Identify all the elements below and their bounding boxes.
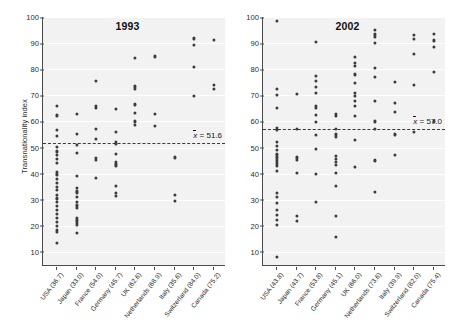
gridline xyxy=(43,226,225,227)
gridline xyxy=(263,69,445,70)
data-point xyxy=(413,83,416,86)
data-point xyxy=(334,236,337,239)
x-axis-tick xyxy=(115,267,116,270)
x-axis-tick xyxy=(394,267,395,270)
data-point xyxy=(95,137,98,140)
gridline xyxy=(43,95,225,96)
x-axis-tick xyxy=(193,267,194,270)
data-point xyxy=(173,156,176,159)
data-point xyxy=(393,81,396,84)
data-point xyxy=(373,75,376,78)
data-point xyxy=(75,112,78,115)
x-axis-label: Switzerland (82.0) xyxy=(383,271,422,318)
data-point xyxy=(56,162,59,165)
y-axis-tick: 80 xyxy=(13,65,39,74)
y-axis-tick: 70 xyxy=(13,91,39,100)
data-point xyxy=(75,191,78,194)
data-point xyxy=(56,212,59,215)
y-axis-tick: 60 xyxy=(13,117,39,126)
gridline xyxy=(263,174,445,175)
y-axis-tick: 10 xyxy=(233,247,259,256)
x-axis-tick xyxy=(174,267,175,270)
data-point xyxy=(334,136,337,139)
data-point xyxy=(432,33,435,36)
data-point xyxy=(315,114,318,117)
data-point xyxy=(334,184,337,187)
data-point xyxy=(134,103,137,106)
data-point xyxy=(56,150,59,153)
gridline xyxy=(43,174,225,175)
data-point xyxy=(276,191,279,194)
data-point xyxy=(315,85,318,88)
data-point xyxy=(354,82,357,85)
gridline xyxy=(263,200,445,201)
x-axis-tick xyxy=(154,267,155,270)
mean-label: x = 51.6 xyxy=(193,131,222,142)
mean-label: x = 57.0 xyxy=(413,117,442,128)
y-axis-tick: 90 xyxy=(233,39,259,48)
data-point xyxy=(95,158,98,161)
data-point xyxy=(134,56,137,59)
data-point xyxy=(354,91,357,94)
y-axis-tick: 10 xyxy=(13,247,39,256)
x-axis-tick xyxy=(433,267,434,270)
data-point xyxy=(56,220,59,223)
data-point xyxy=(134,120,137,123)
data-point xyxy=(354,99,357,102)
data-point xyxy=(193,37,196,40)
data-point xyxy=(315,80,318,83)
data-point xyxy=(276,87,279,90)
y-axis-tick: 90 xyxy=(13,39,39,48)
x-axis-tick xyxy=(134,267,135,270)
data-point xyxy=(276,164,279,167)
data-point xyxy=(315,200,318,203)
data-point xyxy=(75,231,78,234)
data-point xyxy=(315,91,318,94)
data-point xyxy=(134,88,137,91)
x-axis-labels-2002: USA (43.8)Japan (43.7)France (53.8)Germa… xyxy=(262,267,445,334)
data-point xyxy=(212,87,215,90)
data-point xyxy=(432,46,435,49)
gridline xyxy=(43,43,225,44)
data-point xyxy=(393,110,396,113)
data-point xyxy=(354,95,357,98)
panel-2002: 2002 102030405060708090100x = 57.0 USA (… xyxy=(250,17,445,265)
data-point xyxy=(75,152,78,155)
data-point xyxy=(373,42,376,45)
x-axis-tick xyxy=(213,267,214,270)
data-point xyxy=(432,70,435,73)
data-point xyxy=(276,141,279,144)
gridline xyxy=(263,43,445,44)
data-point xyxy=(56,189,59,192)
data-point xyxy=(75,143,78,146)
data-point xyxy=(276,149,279,152)
x-axis-tick xyxy=(296,267,297,270)
data-point xyxy=(354,64,357,67)
x-axis-tick xyxy=(276,267,277,270)
data-point xyxy=(315,133,318,136)
y-axis-tick: 70 xyxy=(233,91,259,100)
data-point xyxy=(56,134,59,137)
data-point xyxy=(114,142,117,145)
data-point xyxy=(114,185,117,188)
y-axis-label: Transnationality index xyxy=(20,57,29,217)
data-point xyxy=(276,201,279,204)
data-point xyxy=(354,105,357,108)
x-axis-tick xyxy=(413,267,414,270)
y-axis-tick: 20 xyxy=(13,221,39,230)
data-point xyxy=(56,231,59,234)
data-point xyxy=(413,130,416,133)
data-point xyxy=(276,214,279,217)
y-axis-tick: 50 xyxy=(13,143,39,152)
data-point xyxy=(315,172,318,175)
data-point xyxy=(56,241,59,244)
x-axis-tick xyxy=(95,267,96,270)
data-point xyxy=(334,128,337,131)
transnationality-index-figure: Transnationality index 1993 102030405060… xyxy=(0,0,473,334)
data-point xyxy=(134,112,137,115)
data-point xyxy=(95,128,98,131)
data-point xyxy=(295,220,298,223)
data-point xyxy=(373,36,376,39)
data-point xyxy=(413,37,416,40)
y-axis-tick: 50 xyxy=(233,143,259,152)
